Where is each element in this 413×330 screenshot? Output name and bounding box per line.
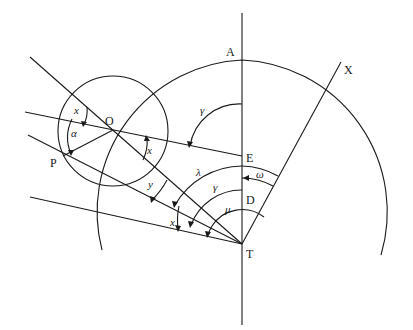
angle-label-gamma-top: γ bbox=[200, 104, 205, 116]
label-O: O bbox=[105, 114, 114, 128]
line-lower-T bbox=[30, 197, 242, 244]
geometry-diagram: A E D T O P X x α x γ y λ γ ω μ x bbox=[0, 0, 413, 330]
angle-label-mu: μ bbox=[224, 203, 231, 215]
arc-x-top bbox=[84, 107, 87, 124]
label-X: X bbox=[344, 63, 353, 77]
label-A: A bbox=[226, 45, 235, 59]
label-D: D bbox=[246, 193, 255, 207]
angle-label-lambda: λ bbox=[195, 166, 201, 178]
arrow-x-bottom-icon bbox=[175, 225, 181, 232]
arrow-gamma-mid-icon bbox=[188, 221, 194, 228]
angle-label-x-bottom: x bbox=[169, 216, 175, 228]
arc-y bbox=[152, 180, 167, 200]
line-PT bbox=[28, 135, 242, 244]
label-E: E bbox=[246, 151, 253, 165]
angle-label-x-right: x bbox=[146, 144, 152, 156]
angle-label-omega: ω bbox=[256, 168, 264, 180]
angle-label-alpha: α bbox=[71, 127, 77, 139]
angle-label-y: y bbox=[147, 178, 153, 190]
arrow-omega-icon bbox=[243, 175, 249, 181]
angle-label-gamma-mid: γ bbox=[213, 181, 218, 193]
label-P: P bbox=[50, 156, 57, 170]
arc-lambda bbox=[175, 166, 242, 205]
arc-gamma-top bbox=[190, 104, 242, 146]
angle-label-x-top: x bbox=[73, 104, 79, 116]
arrow-lambda-icon bbox=[172, 201, 178, 208]
label-T: T bbox=[246, 247, 254, 261]
